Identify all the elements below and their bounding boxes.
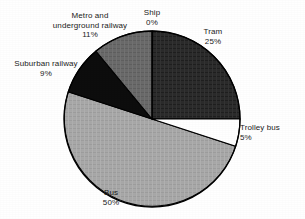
pie-label-tram: Tram 25% (190, 27, 236, 46)
pie-label-bus-percent: 50% (88, 198, 134, 208)
pie-label-trolley-bus: Trolley bus 5% (240, 123, 302, 142)
pie-label-bus: Bus 50% (88, 188, 134, 207)
pie-label-bus-name: Bus (88, 188, 134, 198)
pie-label-tram-name: Tram (190, 27, 236, 37)
pie-label-metro-underground-railway: Metro and underground railway 11% (40, 11, 140, 40)
pie-chart: Ship 0% Tram 25% Trolley bus 5% Bus 50% … (0, 0, 305, 219)
pie-label-metro-name-line2: underground railway (40, 21, 140, 31)
pie-label-metro-name-line1: Metro and (40, 11, 140, 21)
pie-label-trolley-bus-percent: 5% (240, 133, 302, 143)
pie-label-suburban-railway-percent: 9% (4, 69, 88, 79)
pie-label-suburban-railway-name: Suburban railway (4, 59, 88, 69)
pie-label-metro-percent: 11% (40, 30, 140, 40)
pie-label-tram-percent: 25% (190, 37, 236, 47)
pie-label-trolley-bus-name: Trolley bus (240, 123, 302, 133)
pie-label-suburban-railway: Suburban railway 9% (4, 59, 88, 78)
